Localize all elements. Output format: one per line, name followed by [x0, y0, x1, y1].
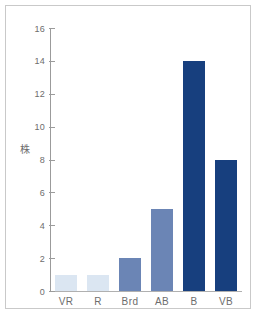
y-tick-label: 8	[40, 155, 45, 165]
bar-B	[183, 61, 205, 291]
y-axis-title: 株	[20, 145, 30, 155]
y-tick-mark	[49, 225, 55, 226]
y-tick-4: 4	[50, 225, 56, 226]
y-tick-12: 12	[50, 94, 56, 95]
y-tick-label: 10	[34, 122, 45, 132]
y-tick-mark	[49, 192, 55, 193]
plot-area: 0246810121416 VRRBrdABBVB	[50, 28, 242, 291]
x-tick-label-VR: VR	[50, 296, 82, 307]
y-tick-mark	[49, 94, 55, 95]
y-tick-label: 16	[34, 24, 45, 34]
y-tick-label: 6	[40, 188, 45, 198]
x-tick-label-VB: VB	[210, 296, 242, 307]
bar-R	[87, 275, 109, 291]
y-tick-label: 14	[34, 56, 45, 66]
x-tick-label-R: R	[82, 296, 114, 307]
y-tick-10: 10	[50, 127, 56, 128]
y-tick-label: 12	[34, 89, 45, 99]
x-axis-line	[50, 291, 242, 292]
y-tick-mark	[49, 160, 55, 161]
y-tick-14: 14	[50, 61, 56, 62]
x-tick-label-Brd: Brd	[114, 296, 146, 307]
y-tick-mark	[49, 127, 55, 128]
y-tick-8: 8	[50, 160, 56, 161]
y-tick-2: 2	[50, 258, 56, 259]
bar-VB	[215, 160, 237, 292]
y-tick-6: 6	[50, 192, 56, 193]
x-tick-label-AB: AB	[146, 296, 178, 307]
y-tick-mark	[49, 258, 55, 259]
y-tick-0: 0	[50, 291, 56, 292]
y-tick-mark	[49, 61, 55, 62]
x-tick-label-B: B	[178, 296, 210, 307]
y-tick-label: 0	[40, 287, 45, 297]
bar-VR	[55, 275, 77, 291]
y-tick-label: 4	[40, 221, 45, 231]
chart-figure: 株 0246810121416 VRRBrdABBVB	[0, 0, 257, 315]
y-tick-mark	[49, 291, 55, 292]
bar-AB	[151, 209, 173, 291]
figure-frame: 株 0246810121416 VRRBrdABBVB	[5, 5, 251, 309]
y-tick-label: 2	[40, 254, 45, 264]
y-tick-16: 16	[50, 28, 56, 29]
y-tick-mark	[49, 28, 55, 29]
bar-Brd	[119, 258, 141, 291]
